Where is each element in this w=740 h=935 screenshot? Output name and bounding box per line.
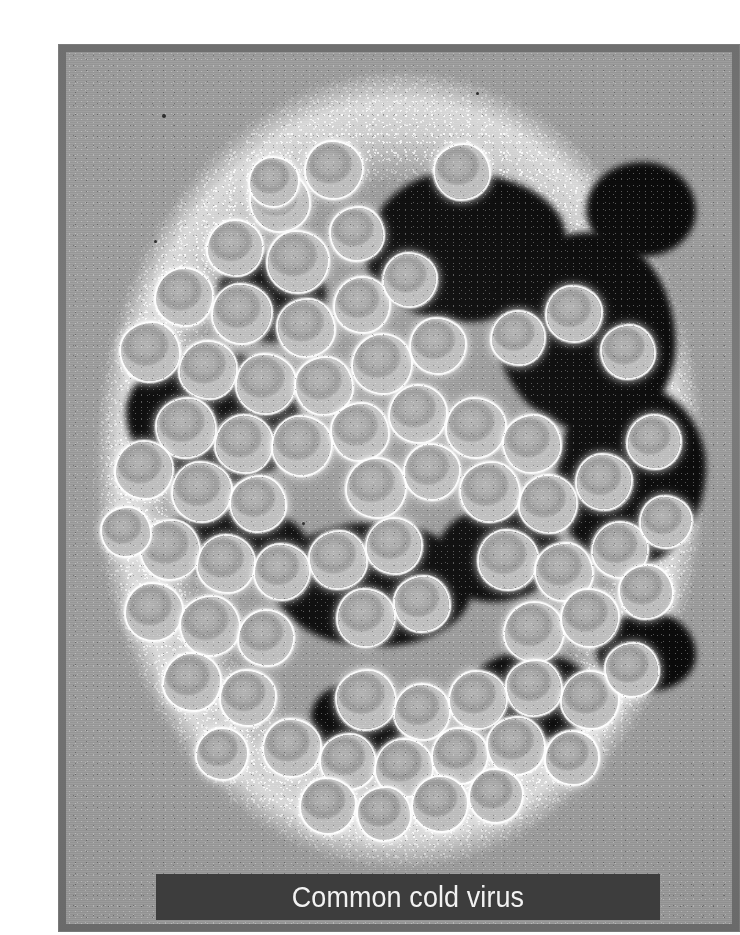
virus-particle	[181, 597, 239, 655]
virus-particle	[504, 416, 560, 472]
micrograph-canvas	[66, 52, 732, 924]
virus-particle	[180, 342, 236, 398]
virus-particle	[435, 145, 489, 199]
print-speck	[162, 114, 166, 118]
virus-particle	[488, 718, 544, 774]
virus-particle	[208, 221, 262, 275]
virus-particle	[358, 788, 410, 840]
virus-particle-cluster	[66, 52, 732, 924]
virus-particle	[116, 442, 172, 498]
virus-particle	[353, 335, 411, 393]
virus-particle	[337, 671, 395, 729]
virus-particle	[198, 536, 254, 592]
virus-particle	[620, 566, 672, 618]
virus-particle	[347, 459, 405, 517]
virus-particle	[628, 416, 680, 468]
virus-particle	[395, 685, 449, 739]
virus-particle	[231, 477, 285, 531]
virus-particle	[335, 278, 389, 332]
virus-particle	[520, 476, 576, 532]
virus-particle	[367, 519, 421, 573]
virus-particle	[197, 729, 247, 779]
virus-particle	[156, 269, 212, 325]
virus-particle	[413, 777, 467, 831]
virus-particle	[121, 323, 179, 381]
virus-particle	[390, 386, 446, 442]
caption-label: Common cold virus	[292, 883, 524, 912]
print-speck	[476, 92, 479, 95]
virus-particle	[216, 416, 272, 472]
virus-particle	[296, 358, 352, 414]
virus-particle	[164, 654, 220, 710]
print-speck	[154, 240, 157, 243]
virus-particle	[602, 326, 654, 378]
virus-particle	[157, 399, 215, 457]
print-speck	[302, 522, 305, 525]
virus-particle	[461, 463, 519, 521]
virus-particle	[331, 208, 383, 260]
virus-particle	[606, 644, 658, 696]
virus-particle	[395, 577, 449, 631]
virus-particle	[492, 312, 544, 364]
virus-particle	[507, 661, 561, 715]
virus-particle	[546, 732, 598, 784]
virus-particle	[278, 300, 334, 356]
virus-particle	[310, 532, 366, 588]
virus-particle	[505, 603, 563, 661]
virus-particle	[332, 404, 388, 460]
virus-particle	[102, 508, 150, 556]
stain-pool	[586, 162, 696, 257]
micrograph-figure: Common cold virus	[58, 44, 740, 932]
virus-particle	[239, 611, 293, 665]
caption-band: Common cold virus	[156, 874, 660, 920]
